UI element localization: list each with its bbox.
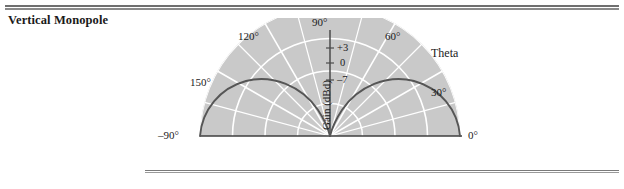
- figure-vertical-monopole: Vertical Monopole: [0, 0, 624, 189]
- bottom-double-rule: [145, 170, 619, 173]
- top-double-rule: [5, 5, 619, 10]
- angle-label-60: 60°: [385, 30, 400, 42]
- polar-plot: +3 0 –7 Gain (dBd) 90° 120° 60° 150° 30°…: [150, 18, 510, 158]
- radial-axis-title: Gain (dBd): [320, 80, 332, 130]
- bottom-rule-line-2: [145, 172, 619, 173]
- radial-label-0: 0: [340, 57, 345, 68]
- bottom-rule-line-1: [145, 170, 619, 171]
- angle-label-30: 30°: [431, 86, 446, 98]
- figure-title: Vertical Monopole: [8, 13, 108, 28]
- radial-label-minus7: –7: [337, 74, 348, 85]
- top-rule-line-1: [5, 5, 619, 7]
- radial-label-plus3: +3: [337, 42, 348, 53]
- angle-label-150: 150°: [190, 76, 211, 88]
- top-rule-line-2: [5, 8, 619, 10]
- angle-label-minus90: –90°: [158, 129, 179, 141]
- angle-label-120: 120°: [238, 30, 259, 42]
- angle-label-90: 90°: [312, 16, 327, 28]
- angle-label-0: 0°: [468, 129, 478, 141]
- angle-axis-title: Theta: [431, 46, 458, 61]
